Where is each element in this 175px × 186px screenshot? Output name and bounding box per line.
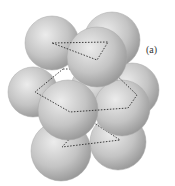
sphere <box>38 80 98 140</box>
sphere <box>67 27 127 87</box>
sphere-packing-diagram <box>0 0 175 186</box>
figure-label: (a) <box>146 44 157 55</box>
